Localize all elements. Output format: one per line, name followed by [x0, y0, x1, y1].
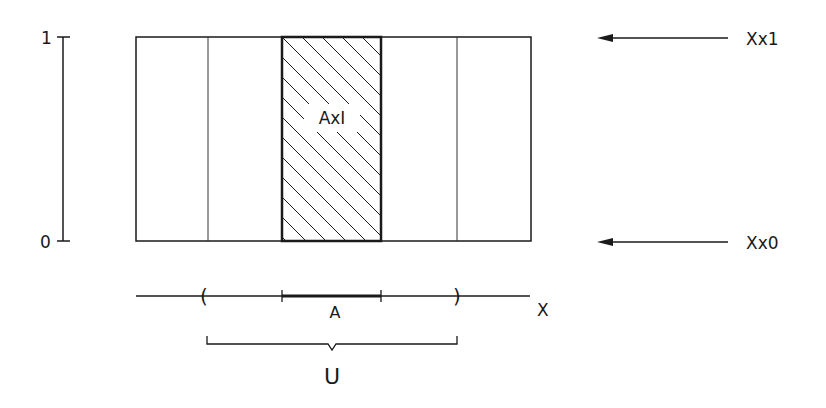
diagram-canvas: 1 0 [0, 0, 826, 408]
neighborhood-brace [207, 336, 457, 350]
top-fiber-arrow [597, 34, 728, 42]
bottom-fiber-arrow [597, 238, 728, 246]
close-paren: ) [453, 284, 461, 308]
subset-a-segment [282, 290, 381, 302]
interval-bottom-label: 0 [40, 232, 51, 252]
product-box [136, 37, 531, 241]
x-axis-label: X [537, 300, 549, 320]
neighborhood-label: U [324, 364, 340, 389]
subset-a-label: A [330, 303, 341, 322]
interval-top-label: 1 [41, 28, 52, 48]
top-fiber-label: Xx1 [746, 29, 779, 49]
unit-interval-axis [57, 37, 70, 241]
bottom-fiber-label: Xx0 [746, 233, 779, 253]
hatched-region-label: AxI [319, 108, 346, 128]
open-paren: ( [200, 284, 208, 308]
hatched-region [42, 17, 582, 257]
